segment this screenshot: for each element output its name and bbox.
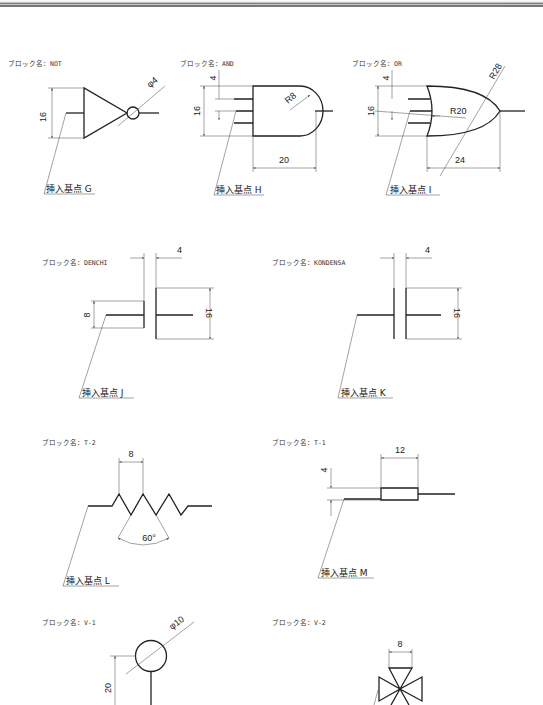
dimension-r8: R8: [283, 90, 298, 105]
dimension-4: 4: [208, 75, 218, 80]
insert-point-label: 挿入基点 H: [216, 184, 262, 195]
dimension-20: 20: [103, 683, 113, 693]
insert-point-label: 挿入基点 I: [390, 184, 432, 195]
block-t1: ブロック名：T-1 4 12 挿入基点 M: [272, 438, 455, 578]
dimension-16: 16: [204, 308, 214, 318]
block-or: ブロック名：OR 16 4 R20 R28 24 挿入基点 I: [352, 59, 525, 195]
block-name-label: ブロック名：V-1: [42, 618, 96, 627]
dimension-60-degrees: 60°: [142, 533, 156, 543]
dimension-4: 4: [425, 245, 430, 255]
dimension-16: 16: [452, 308, 462, 318]
dimension-8: 8: [397, 639, 402, 649]
block-v2: ブロック名：V-2 8: [272, 618, 422, 705]
insert-point-label: 挿入基点 M: [321, 567, 368, 578]
dimension-4: 4: [177, 245, 182, 255]
block-name-label: ブロック名：OR: [352, 59, 402, 68]
dimension-4: 4: [319, 467, 329, 472]
dimension-8: 8: [82, 312, 92, 317]
block-v1: ブロック名：V-1 φ10 20: [42, 614, 194, 705]
dimension-phi10: φ10: [167, 614, 186, 632]
cad-drawing-sheet: ブロック名：NOT 16 φ4 挿入基点 G ブロック名：AND 16 4 R8…: [0, 0, 543, 705]
dimension-r28: R28: [487, 62, 504, 81]
dimension-phi4: φ4: [145, 75, 160, 90]
block-name-label: ブロック名：NOT: [8, 59, 62, 68]
block-not: ブロック名：NOT 16 φ4 挿入基点 G: [8, 59, 165, 194]
insert-point-label: 挿入基点 G: [46, 183, 92, 194]
insert-point-label: 挿入基点 J: [82, 387, 124, 398]
dimension-20: 20: [279, 155, 289, 165]
block-name-label: ブロック名：AND: [180, 59, 234, 68]
block-name-label: ブロック名：V-2: [272, 618, 326, 627]
insert-point-label: 挿入基点 L: [66, 575, 110, 586]
block-name-label: ブロック名：DENCHI: [42, 258, 108, 267]
dimension-12: 12: [395, 445, 405, 455]
block-name-label: ブロック名：T-1: [272, 438, 326, 447]
block-kondensa: ブロック名：KONDENSA 4 16 挿入基点 K: [272, 245, 462, 398]
insert-point-label: 挿入基点 K: [341, 387, 387, 398]
dimension-4: 4: [381, 75, 391, 80]
block-name-label: ブロック名：T-2: [42, 438, 96, 447]
dimension-24: 24: [455, 155, 465, 165]
dimension-16: 16: [38, 112, 48, 122]
dimension-r20: R20: [450, 106, 467, 116]
block-and: ブロック名：AND 16 4 R8 20 挿入基点 H: [180, 59, 333, 195]
dimension-8: 8: [128, 449, 133, 459]
dimension-16: 16: [192, 106, 202, 116]
dimension-16: 16: [366, 106, 376, 116]
block-denchi: ブロック名：DENCHI 8 4 16 挿入基点 J: [42, 245, 214, 398]
block-t2: ブロック名：T-2 8 60° 挿入基点 L: [42, 438, 212, 586]
block-name-label: ブロック名：KONDENSA: [272, 258, 345, 267]
